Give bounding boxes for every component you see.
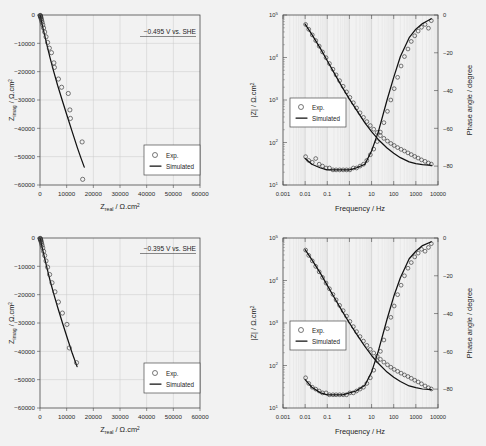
x-tick-label: 0.01 — [299, 191, 310, 197]
data-point — [382, 121, 386, 125]
x-tick-label: 40000 — [138, 413, 156, 420]
y-axis-label: |Z| / Ω.cm2 — [249, 305, 258, 340]
y2-tick-label: 0 — [443, 12, 446, 18]
y-tick-label: 103 — [269, 96, 278, 103]
data-point — [68, 108, 72, 112]
eis-figure: 01000020000300004000050000600000−10000−2… — [0, 0, 486, 446]
data-point — [420, 382, 424, 386]
data-point — [382, 136, 386, 140]
panel-bode-top: 0.0010.010.11101001000100001011021031041… — [243, 0, 486, 223]
y2-tick-label: −80 — [443, 163, 453, 169]
y-tick-label: −30000 — [14, 96, 35, 103]
legend-sim-label: Simulated — [312, 338, 340, 345]
y-tick-label: −60000 — [14, 404, 35, 411]
x-tick-label: 60000 — [191, 190, 209, 197]
bode-top-svg: 0.0010.010.11101001000100001011021031041… — [243, 0, 486, 223]
y-tick-label: 104 — [269, 276, 278, 283]
legend-nyquist-bottom: Exp. Simulated — [144, 363, 200, 393]
legend-box — [144, 363, 200, 393]
x-tick-label: 10 — [368, 414, 374, 420]
y2-tick-label: −80 — [443, 386, 453, 392]
data-point — [52, 61, 56, 65]
x-tick-label: 10000 — [430, 191, 446, 197]
y-tick-label: 105 — [269, 234, 278, 241]
data-point — [49, 51, 53, 55]
legend-sim-label: Simulated — [166, 381, 194, 388]
y-tick-label: −60000 — [14, 181, 35, 188]
x-tick-label: 50000 — [165, 190, 183, 197]
x-axis-label: Zreal / Ω.cm2 — [100, 425, 140, 435]
y-axis-label: Zimag / Ω.cm2 — [7, 302, 17, 344]
y-tick-label: −20000 — [14, 291, 35, 298]
y2-tick-label: −60 — [443, 349, 453, 355]
y-tick-label: 103 — [269, 319, 278, 326]
x-tick-label: 30000 — [111, 413, 129, 420]
x-tick-label: 10000 — [58, 190, 76, 197]
data-point — [399, 283, 403, 287]
data-point — [80, 140, 84, 144]
data-point — [399, 64, 403, 68]
x-tick-label: 1 — [348, 191, 351, 197]
x-tick-label: 20000 — [85, 413, 103, 420]
panel-bode-bottom: 0.0010.010.11101001000100001011021031041… — [243, 223, 486, 446]
y-tick-label: −50000 — [14, 376, 35, 383]
potential-annotation: −0.495 V vs. SHE — [144, 28, 197, 35]
x-axis-label: Frequency / Hz — [335, 204, 385, 213]
y2-tick-label: −20 — [443, 273, 453, 279]
x-tick-label: 100 — [389, 191, 399, 197]
x-axis-label: Zreal / Ω.cm2 — [100, 202, 140, 212]
x-tick-label: 1000 — [409, 191, 422, 197]
y2-tick-label: −60 — [443, 126, 453, 132]
x-tick-label: 0.001 — [276, 191, 291, 197]
data-point — [60, 85, 64, 89]
legend-exp-label: Exp. — [312, 104, 325, 112]
y-tick-label: −20000 — [14, 68, 35, 75]
legend-box — [290, 321, 346, 350]
y-tick-label: 104 — [269, 53, 278, 60]
legend-box — [144, 145, 200, 175]
y2-tick-label: 0 — [443, 235, 446, 241]
x-tick-label: 50000 — [165, 413, 183, 420]
x-tick-label: 0.001 — [276, 414, 291, 420]
y-tick-label: −30000 — [14, 319, 35, 326]
x-tick-label: 10000 — [58, 413, 76, 420]
legend-nyquist-top: Exp. Simulated — [144, 145, 200, 175]
y-tick-label: 102 — [269, 138, 278, 145]
data-point — [389, 315, 393, 319]
data-point — [372, 351, 376, 355]
legend-bode-top: Exp. Simulated — [290, 98, 346, 127]
y2-tick-label: −20 — [443, 50, 453, 56]
y2-tick-label: −40 — [443, 311, 453, 317]
simulated-curve — [40, 15, 84, 167]
y-tick-label: 0 — [32, 11, 36, 18]
nyquist-top-svg: 01000020000300004000050000600000−10000−2… — [0, 0, 243, 223]
legend-bode-bottom: Exp. Simulated — [290, 321, 346, 350]
x-tick-label: 10000 — [430, 414, 446, 420]
data-point — [396, 75, 400, 79]
data-point — [382, 360, 386, 364]
x-tick-label: 0.1 — [323, 414, 331, 420]
data-point — [427, 246, 431, 250]
legend-box — [290, 98, 346, 127]
data-point — [389, 98, 393, 102]
bode-bottom-svg: 0.0010.010.11101001000100001011021031041… — [243, 223, 486, 446]
data-point — [68, 116, 72, 120]
x-tick-label: 60000 — [191, 413, 209, 420]
data-point — [56, 300, 60, 304]
data-point — [382, 338, 386, 342]
y-tick-label: 101 — [269, 404, 278, 411]
x-tick-label: 30000 — [111, 190, 129, 197]
x-tick-label: 20000 — [85, 190, 103, 197]
y-tick-label: −50000 — [14, 153, 35, 160]
data-point — [416, 29, 420, 33]
y2-axis-label: Phase angle / degree — [465, 65, 474, 135]
panel-nyquist-top: 01000020000300004000050000600000−10000−2… — [0, 0, 243, 223]
y-tick-label: 105 — [269, 11, 278, 18]
x-tick-label: 0 — [38, 190, 42, 197]
y2-tick-label: −40 — [443, 88, 453, 94]
x-axis-label: Frequency / Hz — [335, 427, 385, 436]
legend-sim-label: Simulated — [166, 163, 194, 170]
legend-exp-label: Exp. — [312, 327, 325, 335]
x-tick-label: 1 — [348, 414, 351, 420]
y-tick-label: 0 — [32, 234, 36, 241]
